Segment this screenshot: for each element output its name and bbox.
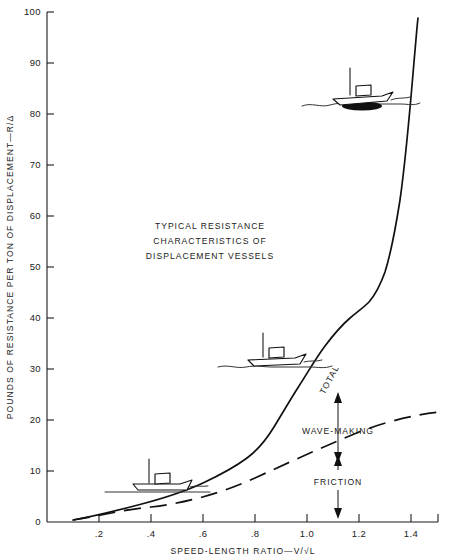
x-tick-label-1-2: 1.2 [352, 528, 366, 539]
axes: 100 90 80 70 60 50 40 30 20 10 0 [24, 6, 438, 539]
label-wave-making: WAVE-MAKING [302, 426, 374, 436]
y-tick-label-40: 40 [30, 312, 41, 323]
x-tick-label-0-6: .6 [199, 528, 208, 539]
friction-curve [73, 412, 440, 520]
x-tick-label-1-4: 1.4 [404, 528, 418, 539]
y-tick-label-90: 90 [30, 57, 41, 68]
y-axis-tick-labels: 100 90 80 70 60 50 40 30 20 10 0 [24, 6, 41, 527]
chart-title-line-2: CHARACTERISTICS OF [153, 236, 267, 246]
waterline-medium-speed [218, 366, 332, 368]
y-tick-label-50: 50 [30, 261, 41, 272]
x-axis-ticks [99, 514, 438, 522]
label-friction: FRICTION [314, 477, 363, 487]
friction-arrowhead-down [334, 508, 342, 519]
x-axis-tick-labels: .2 .4 .6 .8 1.0 1.2 1.4 [95, 528, 419, 539]
y-tick-label-80: 80 [30, 108, 41, 119]
y-tick-label-20: 20 [30, 414, 41, 425]
x-axis-title: SPEED-LENGTH RATIO—V/√L [170, 546, 315, 556]
x-tick-label-1-0: 1.0 [300, 528, 314, 539]
stern-wake-high-speed [391, 97, 410, 100]
stern-wake-medium-speed [304, 360, 322, 362]
x-tick-label-0-4: .4 [147, 528, 156, 539]
y-tick-label-60: 60 [30, 210, 41, 221]
label-total: TOTAL [317, 363, 341, 396]
chart-title-block: TYPICAL RESISTANCE CHARACTERISTICS OF DI… [146, 221, 274, 261]
wave-making-arrowhead-up [334, 392, 342, 403]
annotation-arrows [334, 392, 342, 519]
y-tick-label-10: 10 [30, 465, 41, 476]
x-tick-label-0-2: .2 [95, 528, 104, 539]
medium-speed-vessel-illustration [218, 333, 332, 368]
y-tick-label-0: 0 [35, 516, 41, 527]
chart-title-line-1: TYPICAL RESISTANCE [155, 221, 265, 231]
high-speed-vessel-illustration [302, 68, 420, 111]
superstructure-low-speed [155, 473, 170, 484]
chart-title-line-3: DISPLACEMENT VESSELS [146, 251, 274, 261]
y-axis-title: POUNDS OF RESISTANCE PER TON OF DISPLACE… [5, 115, 15, 420]
stern-wake-low-speed [190, 486, 208, 487]
superstructure-high-speed [356, 85, 371, 96]
y-tick-label-100: 100 [24, 6, 41, 17]
x-tick-label-0-8: .8 [251, 528, 260, 539]
y-tick-label-30: 30 [30, 363, 41, 374]
superstructure-medium-speed [269, 347, 284, 358]
y-axis-ticks [47, 12, 54, 471]
friction-arrowhead-up [334, 455, 342, 466]
chart-canvas: 100 90 80 70 60 50 40 30 20 10 0 [0, 0, 456, 560]
y-tick-label-70: 70 [30, 159, 41, 170]
resistance-chart: 100 90 80 70 60 50 40 30 20 10 0 [0, 0, 456, 560]
